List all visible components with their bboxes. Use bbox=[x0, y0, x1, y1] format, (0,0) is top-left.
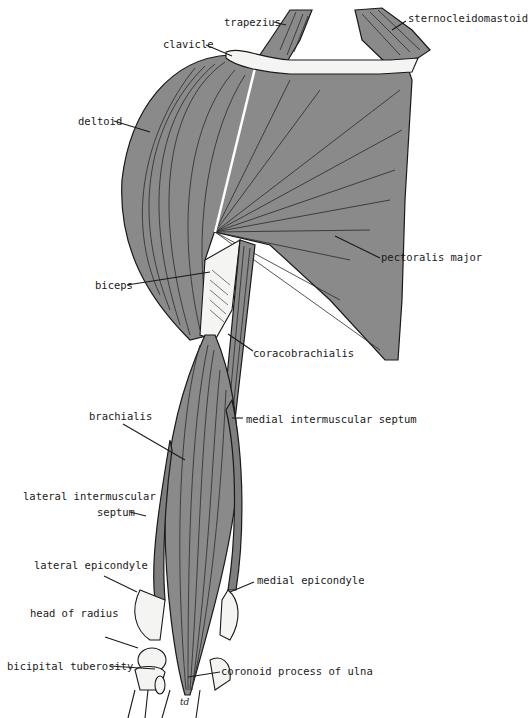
label-lateral-intermuscular-line1: lateral intermuscular bbox=[23, 490, 156, 502]
label-bicipital-tuberosity: bicipital tuberosity bbox=[7, 660, 133, 672]
label-lateral-epicondyle: lateral epicondyle bbox=[34, 559, 148, 571]
label-coronoid-process-of-ulna: coronoid process of ulna bbox=[221, 665, 373, 677]
label-trapezius: trapezius bbox=[224, 16, 281, 28]
label-coracobrachialis: coracobrachialis bbox=[253, 347, 354, 359]
label-pectoralis-major: pectoralis major bbox=[381, 251, 482, 263]
label-sternocleidomastoid: sternocleidomastoid bbox=[408, 12, 528, 24]
label-medial-intermuscular-septum: medial intermuscular septum bbox=[246, 413, 417, 425]
label-medial-epicondyle: medial epicondyle bbox=[257, 574, 364, 586]
label-biceps: biceps bbox=[95, 279, 133, 291]
label-clavicle: clavicle bbox=[163, 38, 214, 50]
label-head-of-radius: head of radius bbox=[30, 607, 119, 619]
label-deltoid: deltoid bbox=[78, 115, 122, 127]
artist-signature: td bbox=[180, 696, 189, 708]
label-brachialis: brachialis bbox=[89, 410, 152, 422]
brachialis-muscle bbox=[165, 335, 238, 695]
label-lateral-intermuscular-line2: septum bbox=[97, 506, 135, 518]
